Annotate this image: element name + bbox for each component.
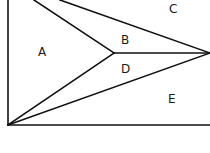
edge-top-to-right bbox=[60, 0, 210, 53]
region-label-a: A bbox=[38, 45, 47, 59]
region-label-b: B bbox=[121, 33, 129, 47]
region-label-c: C bbox=[169, 2, 177, 16]
region-label-e: E bbox=[168, 92, 176, 106]
region-label-d: D bbox=[121, 62, 130, 76]
partition-diagram: A B C D E bbox=[0, 0, 210, 153]
edge-bottomleft-to-middle bbox=[8, 53, 114, 125]
edge-bottomleft-to-right bbox=[8, 53, 210, 125]
